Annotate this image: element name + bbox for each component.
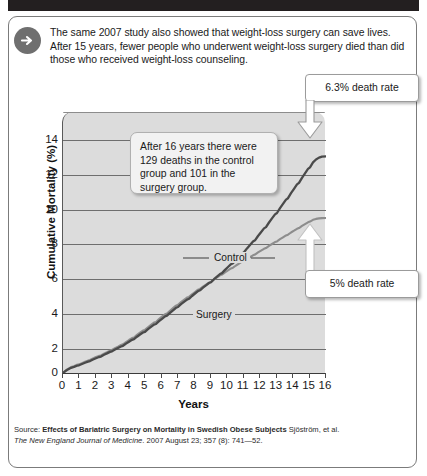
y-tick-14: 14	[18, 133, 58, 145]
x-axis-title: Years	[62, 398, 325, 410]
x-tick-9	[210, 373, 211, 378]
x-tick-8	[194, 373, 195, 378]
intro-text: The same 2007 study also showed that wei…	[50, 26, 410, 67]
source-title: Effects of Bariatric Surgery on Mortalit…	[42, 425, 286, 434]
x-tick-label-16: 16	[314, 379, 336, 391]
chart-area: Cumulative Mortality (%) Control Surgery	[14, 96, 413, 418]
source-journal: The New England Journal of Medicine	[14, 436, 142, 445]
x-tick-4	[128, 373, 129, 378]
figure-root: The same 2007 study also showed that wei…	[0, 0, 427, 476]
x-tick-15	[309, 373, 310, 378]
y-tick-12: 12	[18, 168, 58, 180]
y-axis-ticks: 14 12 10 8 6 4 2 0	[14, 112, 58, 373]
x-tick-12	[259, 373, 260, 378]
y-tick-10: 10	[18, 203, 58, 215]
x-tick-14	[292, 373, 293, 378]
x-tick-13	[276, 373, 277, 378]
x-tick-1	[78, 373, 79, 378]
source-citation: Source: Effects of Bariatric Surgery on …	[14, 424, 406, 446]
y-tick-4: 4	[18, 307, 58, 319]
source-authors: Sjöström, et al.	[287, 425, 340, 434]
x-tick-3	[111, 373, 112, 378]
arrow-right-circle-icon	[14, 27, 41, 54]
callout-inside-chart: After 16 years there were 129 deaths in …	[130, 132, 278, 194]
x-tick-11	[243, 373, 244, 378]
series-label-surgery: Surgery	[193, 309, 235, 320]
surgery-line	[63, 218, 326, 373]
callout-surgery-death-rate: 5% death rate	[305, 270, 419, 298]
top-dark-bar	[8, 0, 419, 11]
source-citation-detail: . 2007 August 23; 357 (8): 741—52.	[142, 436, 262, 445]
x-tick-10	[226, 373, 227, 378]
source-line-1: Source: Effects of Bariatric Surgery on …	[14, 424, 406, 435]
y-tick-8: 8	[18, 237, 58, 249]
y-tick-2: 2	[18, 342, 58, 354]
x-tick-2	[95, 373, 96, 378]
callout-control-death-rate: 6.3% death rate	[305, 74, 419, 102]
y-tick-6: 6	[18, 272, 58, 284]
x-tick-5	[144, 373, 145, 378]
x-tick-6	[161, 373, 162, 378]
source-line-2: The New England Journal of Medicine. 200…	[14, 435, 406, 446]
callout-arrow-down-icon	[293, 100, 333, 142]
series-label-control: Control	[211, 252, 250, 263]
y-tick-0: 0	[18, 366, 58, 378]
source-prefix: Source:	[14, 425, 42, 434]
x-tick-16	[325, 373, 326, 378]
x-tick-0	[62, 373, 63, 378]
x-tick-7	[177, 373, 178, 378]
